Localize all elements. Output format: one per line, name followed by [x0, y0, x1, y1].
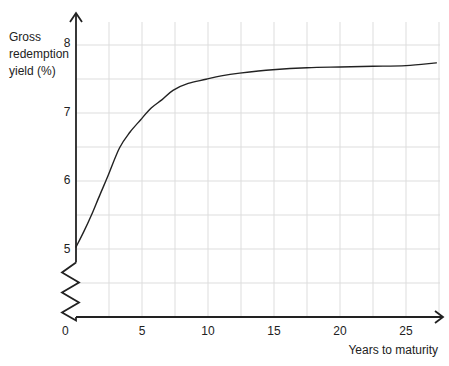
yield-curve-line [76, 63, 436, 247]
y-tick-label: 6 [64, 173, 71, 187]
x-tick-label: 5 [139, 324, 146, 338]
y-tick-label: 7 [64, 105, 71, 119]
x-origin-label: 0 [62, 324, 69, 338]
x-tick-label: 10 [201, 324, 215, 338]
x-tick-label: 15 [267, 324, 281, 338]
x-tick-label: 20 [333, 324, 347, 338]
y-tick-labels: 5678 [64, 36, 71, 256]
x-tick-label: 25 [399, 324, 413, 338]
y-axis-title-line-3: yield (%) [9, 64, 56, 78]
y-axis-title-line-2: redemption [9, 47, 69, 61]
x-axis-title: Years to maturity [348, 343, 438, 357]
axes [62, 13, 443, 323]
axis-break-zigzag-icon [62, 263, 79, 321]
x-tick-labels: 510152025 [139, 324, 413, 338]
y-tick-label: 5 [64, 242, 71, 256]
y-axis-title-line-1: Gross [9, 30, 41, 44]
yield-curve-chart: 5678 510152025 0 Years to maturity Gross… [0, 0, 449, 366]
